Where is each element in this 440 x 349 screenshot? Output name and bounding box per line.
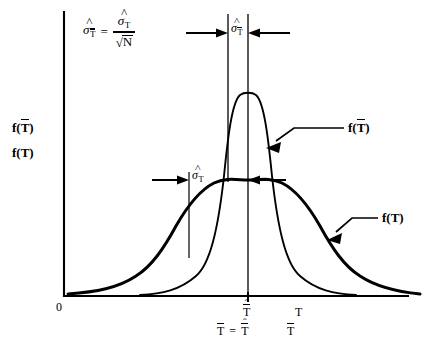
footer-tbar-bar [217,323,224,324]
sigma-tbar-annotation-label: ˄ σ T [231,22,243,37]
distribution-diagram [0,0,440,349]
radical-glyph: √ [116,36,123,50]
radical-overbar [122,35,133,36]
formula-fraction: ˄ σT √ N [113,14,135,48]
lhs-hat-accent: ˄ [83,16,95,28]
tick-tbar-bar [243,304,250,305]
numerator-hat-accent: ˄ [118,7,130,19]
curve-label-tbar-bar [357,119,365,120]
sigma-tbar-subscript-bar [237,27,242,28]
footer-tbar-hat-bar [241,323,248,324]
curve-f-of-t-wide [68,179,420,294]
standard-error-formula: ˄ σ T = ˄ σT √ N [83,14,135,48]
formula-denominator: √ N [113,33,135,49]
formula-lhs: ˄ σ T [83,23,95,39]
y-axis-label-f-tbar: f(T) [12,121,34,134]
curve-label-f-tbar: f(T) [348,121,370,134]
footer-tbar-hat-sym: ˆ T [241,325,248,337]
lhs-subscript: T [89,30,95,39]
origin-label: 0 [56,301,62,313]
x-footer-left-label: T = ˆ T [217,325,248,337]
footer-right-tbar-bar [287,323,294,324]
sigma-tbar-subscript: T [237,29,243,37]
x-axis-name-label: T [295,306,302,318]
axis-group [64,12,408,302]
sigma-t-hat-accent: ˄ [192,162,204,173]
callout-leader-f-t [327,218,378,244]
formula-equals: = [95,25,112,38]
numerator-subscript: T [124,21,130,31]
footer-tbar-sym: T [217,325,224,337]
y-axis-label-f-t: f(T) [12,146,34,159]
callout-leader-f-tbar [266,128,344,153]
x-footer-right-label: T [287,325,294,337]
sigma-t-subscript: T [198,176,204,184]
footer-right-tbar-sym: T [287,325,294,337]
sigma-t-annotation-label: ˄ σT [192,169,204,184]
square-root-symbol: √ N [116,35,132,49]
figure-canvas: ˄ σ T = ˄ σT √ N [0,0,440,349]
y-label-tbar-bar [21,119,29,120]
y-label-tbar-sym: T [21,121,30,134]
curve-label-tbar-sym: T [357,121,366,134]
lhs-subscript-bar [90,28,95,29]
sigma-tbar-hat-accent: ˄ [231,15,243,26]
curve-label-f-t: f(T) [382,211,404,224]
formula-numerator: ˄ σT [115,14,133,31]
